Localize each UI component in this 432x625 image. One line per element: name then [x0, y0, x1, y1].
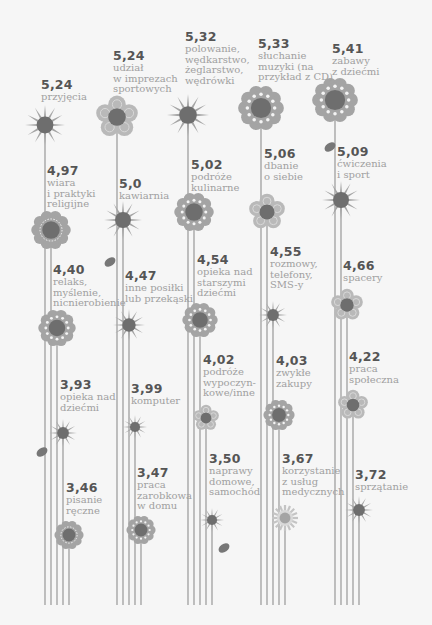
item-label: 3,93 opieka nad dziećmi [60, 378, 116, 413]
item-label: 5,24 udział w imprezach sportowych [113, 49, 178, 95]
item-text: udział w imprezach sportowych [113, 63, 178, 95]
flower-scalloped-dotted-icon [238, 86, 284, 130]
flower-scalloped-dotted-icon [174, 193, 214, 231]
item-label: 3,47 praca zarobkowa w domu [137, 466, 192, 512]
item-text: praca społeczna [349, 364, 399, 385]
item-text: kawiarnia [119, 191, 169, 202]
flower-scalloped-dotted-icon [126, 516, 155, 544]
flower-scalloped-icon [31, 211, 71, 249]
item-value: 4,03 [276, 354, 312, 367]
item-text: komputer [131, 396, 180, 407]
item-label: 4,47 inne posiłki lub przekąski [125, 269, 193, 304]
item-label: 3,99 komputer [131, 382, 180, 407]
flower-star-icon [49, 419, 77, 447]
item-label: 3,67 korzystanie z usług medycznych [282, 452, 344, 498]
item-text: rozmowy, telefony, SMS-y [270, 259, 318, 291]
item-label: 5,06 dbanie o siebie [264, 147, 303, 182]
item-value: 4,22 [349, 350, 399, 363]
flower-five-petal-icon [338, 390, 368, 419]
flower-five-petal-icon [249, 194, 285, 229]
item-value: 4,54 [197, 253, 253, 266]
flower-infographic: 5,24 przyjęcia 4,97 wiara i praktyki rel… [0, 0, 432, 625]
item-value: 5,09 [337, 145, 387, 158]
item-value: 5,41 [332, 42, 380, 55]
item-label: 4,97 wiara i praktyki religijne [47, 164, 96, 210]
item-text: dbanie o siebie [264, 161, 303, 182]
item-label: 5,41 zabawy z dziećmi [332, 42, 380, 77]
item-label: 4,40 relaks, myślenie, nicnierobienie [53, 263, 126, 309]
item-value: 4,66 [343, 259, 382, 272]
item-label: 5,32 polowanie, wędkarstwo, żeglarstwo, … [185, 30, 250, 86]
item-text: opieka nad starszymi dziećmi [197, 267, 253, 299]
item-value: 4,02 [203, 353, 256, 366]
item-value: 3,50 [209, 452, 260, 465]
flower-star-icon [322, 181, 360, 219]
item-value: 5,06 [264, 147, 303, 160]
item-text: podróże kulinarne [191, 172, 239, 193]
item-text: przyjęcia [41, 92, 87, 103]
item-label: 3,72 sprzątanie [355, 468, 408, 493]
flower-star-icon [113, 309, 145, 341]
item-text: inne posiłki lub przekąski [125, 283, 193, 304]
item-value: 5,33 [258, 37, 333, 50]
flower-star-icon [167, 94, 209, 136]
item-value: 5,32 [185, 30, 250, 43]
flower-star-icon [200, 508, 224, 532]
item-text: podróże wypoczyn- kowe/inne [203, 367, 256, 399]
item-value: 3,99 [131, 382, 180, 395]
leaf-icon [35, 445, 49, 458]
item-text: spacery [343, 273, 382, 284]
item-value: 3,47 [137, 466, 192, 479]
item-label: 5,24 przyjęcia [41, 78, 87, 103]
item-label: 4,55 rozmowy, telefony, SMS-y [270, 245, 318, 291]
item-text: korzystanie z usług medycznych [282, 466, 344, 498]
item-text: zabawy z dziećmi [332, 56, 380, 77]
item-value: 4,55 [270, 245, 318, 258]
flower-star-icon [259, 301, 287, 329]
flower-scalloped-dotted-icon [182, 303, 217, 337]
leaf-icon [217, 541, 231, 554]
flower-star-icon [104, 201, 142, 239]
item-value: 5,24 [41, 78, 87, 91]
flower-five-petal-icon [96, 96, 138, 136]
flower-star-icon [25, 105, 65, 145]
flower-star-icon [345, 496, 373, 524]
item-label: 3,46 pisanie ręczne [66, 481, 102, 516]
item-label: 4,54 opieka nad starszymi dziećmi [197, 253, 253, 299]
item-value: 4,40 [53, 263, 126, 276]
item-text: słuchanie muzyki (na przykład z CD) [258, 51, 333, 83]
item-text: praca zarobkowa w domu [137, 480, 192, 512]
item-label: 4,66 spacery [343, 259, 382, 284]
item-text: pisanie ręczne [66, 495, 102, 516]
item-label: 4,02 podróże wypoczyn- kowe/inne [203, 353, 256, 399]
item-text: polowanie, wędkarstwo, żeglarstwo, wędró… [185, 44, 250, 86]
item-label: 3,50 naprawy domowe, samochód [209, 452, 260, 498]
item-label: 5,02 podróże kulinarne [191, 158, 239, 193]
item-text: relaks, myślenie, nicnierobienie [53, 277, 126, 309]
item-label: 5,0 kawiarnia [119, 177, 169, 202]
flower-spiky-icon [272, 505, 298, 531]
item-value: 3,46 [66, 481, 102, 494]
flower-scalloped-dotted-icon [263, 400, 294, 430]
item-value: 3,93 [60, 378, 116, 391]
item-text: opieka nad dziećmi [60, 392, 116, 413]
item-value: 3,67 [282, 452, 344, 465]
item-value: 4,47 [125, 269, 193, 282]
item-text: naprawy domowe, samochód [209, 466, 260, 498]
item-label: 5,33 słuchanie muzyki (na przykład z CD) [258, 37, 333, 83]
item-text: zwykłe zakupy [276, 368, 312, 389]
item-label: 4,22 praca społeczna [349, 350, 399, 385]
item-value: 4,97 [47, 164, 96, 177]
item-value: 5,24 [113, 49, 178, 62]
item-text: sprzątanie [355, 482, 408, 493]
flower-scalloped-icon [54, 521, 83, 549]
flower-scalloped-dotted-icon [38, 310, 75, 346]
flower-scalloped-dotted-icon [312, 78, 358, 122]
item-value: 5,0 [119, 177, 169, 190]
flower-five-petal-icon [193, 405, 219, 430]
flower-five-petal-icon [331, 289, 363, 320]
item-value: 5,02 [191, 158, 239, 171]
item-text: wiara i praktyki religijne [47, 178, 96, 210]
item-label: 4,03 zwykłe zakupy [276, 354, 312, 389]
flower-star-icon [123, 415, 147, 439]
